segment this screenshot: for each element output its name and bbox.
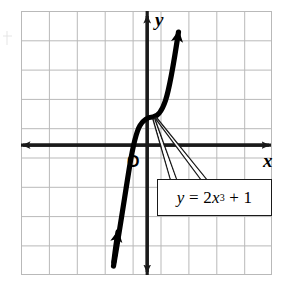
x-axis-label: x: [262, 150, 273, 171]
equation-equals: =: [185, 188, 204, 208]
equation-coefficient: 2: [203, 188, 212, 208]
equation-callout-box: y = 2x3 + 1: [157, 179, 272, 216]
equation-constant: + 1: [225, 188, 252, 208]
origin-label: O: [127, 153, 139, 170]
y-axis-label: y: [153, 9, 164, 30]
equation-lhs: y: [177, 188, 185, 208]
graph-svg: y x O: [0, 0, 285, 285]
equation-variable: x: [212, 188, 220, 208]
figure-background: [0, 0, 285, 285]
cubic-function-figure: y x O y = 2x3 + 1: [0, 0, 285, 285]
